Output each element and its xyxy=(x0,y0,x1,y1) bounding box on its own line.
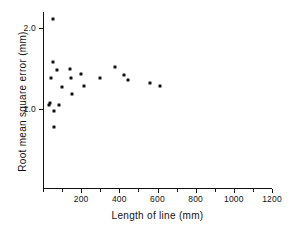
x-tick-200 xyxy=(81,189,82,193)
data-point xyxy=(58,103,61,106)
data-point xyxy=(48,101,51,104)
x-tick-label-1000: 1000 xyxy=(224,194,244,204)
scatter-chart-figure: 20040060080010001200 1.02.0 Length of li… xyxy=(0,0,294,234)
data-point xyxy=(52,61,55,64)
x-tick-500 xyxy=(138,189,139,192)
x-tick-400 xyxy=(119,189,120,193)
x-tick-100 xyxy=(62,189,63,192)
data-point xyxy=(70,92,73,95)
x-tick-300 xyxy=(100,189,101,192)
data-point xyxy=(56,69,59,72)
x-tick-label-600: 600 xyxy=(150,194,165,204)
data-point xyxy=(53,125,56,128)
data-point xyxy=(61,86,64,89)
data-point xyxy=(113,65,116,68)
data-point xyxy=(148,82,151,85)
x-tick-1000 xyxy=(234,189,235,193)
x-tick-label-400: 400 xyxy=(112,194,127,204)
data-point xyxy=(69,77,72,80)
x-tick-label-800: 800 xyxy=(188,194,203,204)
x-tick-900 xyxy=(215,189,216,192)
x-tick-700 xyxy=(177,189,178,192)
y-tick-2.0 xyxy=(39,28,43,29)
data-point xyxy=(126,78,129,81)
x-tick-label-200: 200 xyxy=(74,194,89,204)
x-tick-800 xyxy=(196,189,197,193)
data-point xyxy=(99,77,102,80)
data-point xyxy=(49,77,52,80)
y-axis-line xyxy=(43,12,44,188)
data-point xyxy=(51,18,54,21)
data-point xyxy=(53,110,56,113)
data-point xyxy=(68,67,71,70)
x-tick-600 xyxy=(158,189,159,193)
x-tick-1200 xyxy=(272,189,273,193)
y-tick-1.0 xyxy=(39,109,43,110)
data-point xyxy=(123,73,126,76)
x-tick-label-1200: 1200 xyxy=(262,194,282,204)
x-tick-0 xyxy=(43,189,44,192)
x-tick-1100 xyxy=(253,189,254,192)
data-point xyxy=(83,84,86,87)
x-axis-title: Length of line (mm) xyxy=(43,210,272,221)
data-point xyxy=(80,73,83,76)
y-axis-title: Root mean square error (mm) xyxy=(17,7,28,197)
data-point xyxy=(159,84,162,87)
